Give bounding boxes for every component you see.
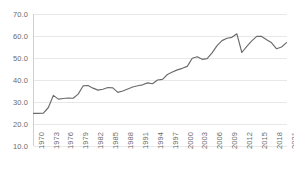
x-tick-label: 1985 [111,132,120,149]
x-tick-label: 2000 [186,132,195,149]
x-tick-label: 1973 [52,132,61,149]
y-tick-label: 40.0 [2,76,28,85]
x-tick-label: 2012 [245,132,254,149]
x-tick-label: 2006 [215,132,224,149]
x-tick-label: 1991 [141,132,150,149]
x-tick-label: 2015 [260,132,269,149]
y-tick-label: 60.0 [2,32,28,41]
x-tick-label: 2003 [200,132,209,149]
x-tick-label: 1970 [37,132,46,149]
x-tick-label: 1997 [171,132,180,149]
y-tick-label: 50.0 [2,54,28,63]
y-tick-label: 70.0 [2,10,28,19]
x-tick-label: 2021 [290,132,294,149]
x-tick-label: 1976 [66,132,75,149]
x-tick-label: 1988 [126,132,135,149]
line-chart: 70.060.050.040.030.020.010.0 19701973197… [0,0,294,186]
y-tick-label: 10.0 [2,142,28,151]
x-tick-label: 1979 [81,132,90,149]
series-line [34,34,287,114]
x-tick-label: 1994 [156,132,165,149]
chart-plot-area [0,0,294,186]
y-tick-label: 30.0 [2,98,28,107]
x-tick-label: 2009 [230,132,239,149]
x-tick-label: 2018 [275,132,284,149]
x-tick-label: 1982 [96,132,105,149]
data-series [34,34,287,114]
y-tick-label: 20.0 [2,120,28,129]
